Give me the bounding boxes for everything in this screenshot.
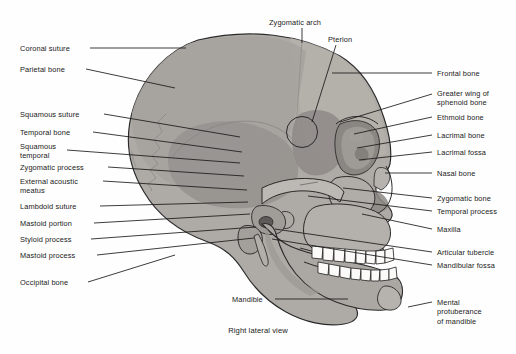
tooth-lower — [371, 270, 380, 281]
label-nasal-bone: Nasal bone — [437, 169, 475, 178]
tooth-lower — [351, 268, 361, 280]
label-zygomatic-bone: Zygomatic bone — [437, 194, 491, 203]
label-mastoid-portion: Mastoid portion — [20, 219, 72, 228]
label-squamous-suture: Squamous suture — [20, 110, 79, 119]
label-styloid-process: Styloid process — [20, 235, 72, 244]
figure-caption: Right lateral view — [216, 326, 300, 335]
skull-anatomy-figure: Coronal sutureParietal boneSquamous sutu… — [0, 0, 516, 354]
label-maxilla: Maxilla — [437, 225, 461, 234]
label-lacrimal-bone: Lacrimal bone — [437, 131, 485, 140]
label-lacrimal-fossa: Lacrimal fossa — [437, 148, 486, 157]
label-mandible: Mandible — [232, 295, 263, 304]
label-parietal-bone: Parietal bone — [20, 65, 65, 74]
leader-occipital-bone — [88, 255, 175, 282]
tooth-upper — [385, 248, 394, 263]
label-zygomatic-process: Zygomatic process — [20, 163, 84, 172]
tooth-lower — [380, 269, 389, 281]
tooth-lower — [329, 264, 340, 277]
label-occipital-bone: Occipital bone — [20, 278, 68, 287]
tooth-upper — [356, 250, 366, 264]
tooth-lower — [361, 269, 371, 281]
label-greater-wing-of-sphenoid-bone: Greater wing of sphenoid bone — [437, 89, 489, 108]
label-temporal-bone: Temporal bone — [20, 128, 70, 137]
label-frontal-bone: Frontal bone — [437, 69, 480, 78]
label-mastoid-process: Mastoid process — [20, 251, 75, 260]
label-pterion: Pterion — [328, 35, 352, 44]
tooth-lower — [340, 266, 351, 279]
label-mental-protuberance-of-mandible: Mental protuberance of mandible — [437, 298, 482, 326]
label-external-acoustic-meatus: External acoustic meatus — [20, 177, 78, 196]
tooth-lower — [318, 262, 329, 275]
leader-mental-protuberance-of-mandible — [408, 302, 432, 307]
label-zygomatic-arch: Zygomatic arch — [269, 18, 321, 27]
tooth-upper — [312, 246, 323, 259]
label-ethmoid-bone: Ethmoid bone — [437, 113, 484, 122]
label-articular-tubercle: Articular tubercle — [437, 248, 494, 257]
label-lambdoid-suture: Lambdoid suture — [20, 202, 77, 211]
label-mandibular-fossa: Mandibular fossa — [437, 261, 495, 270]
nasal-bone-shape — [374, 167, 390, 190]
tooth-upper — [366, 251, 376, 264]
tooth-lower — [389, 267, 397, 280]
label-coronal-suture: Coronal suture — [20, 44, 70, 53]
label-temporal-process: Temporal process — [437, 207, 497, 216]
label-squamous-temporal: Squamous temporal — [20, 142, 56, 161]
